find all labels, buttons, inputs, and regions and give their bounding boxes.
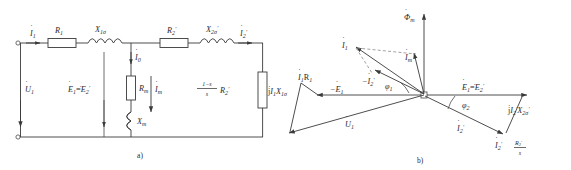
label-i2-r2-over-s: ̇I2′ R2′ s <box>494 137 526 156</box>
resistor-r1 <box>48 39 76 48</box>
phasor-u1 <box>289 95 424 133</box>
label-xm: Xm <box>136 117 147 127</box>
label-s-denominator: s <box>519 150 522 156</box>
label-phasor-i2-prime: ̇I2′ <box>456 120 465 133</box>
label-phasor-i1: ̇I1 <box>341 37 348 50</box>
label-slip-r2-prime: R2′ <box>219 86 230 96</box>
label-x1-sigma: X1σ <box>94 25 107 35</box>
label-i0: ̇I0 <box>134 49 141 62</box>
angle-arc-phi1 <box>400 82 409 93</box>
label-r2-prime: R2′ <box>166 26 177 36</box>
phasor-neg-i2-prime <box>375 70 424 94</box>
phasor-labels: ̇Φm ̇I1 ̇Im ̇I1R1 j̇I1X1σ ̇−E1 ̇−I2′ φ1 … <box>267 9 530 156</box>
caption-a: a) <box>137 151 143 160</box>
label-i2-prime: ̇I2′ <box>239 25 248 38</box>
label-u1: ̇U1 <box>25 81 34 94</box>
label-r2-prime-numerator: R2′ <box>514 140 523 148</box>
construction-line-i1-i2 <box>356 48 372 73</box>
label-phi2: φ2 <box>462 101 470 111</box>
label-neg-e1: ̇−E1 <box>330 81 344 94</box>
label-phasor-im: ̇Im <box>404 49 413 62</box>
phasor-i1-r1 <box>301 83 318 95</box>
phasor-j-i1-x1-sigma <box>290 83 301 132</box>
label-i1: ̇I1 <box>29 25 36 38</box>
label-slip-denominator: s <box>206 91 209 97</box>
label-phasor-u1: ̇U1 <box>345 116 354 129</box>
resistor-r2-prime <box>160 39 188 48</box>
label-e1-equals-e2-prime: ̇E1=̇E2′ <box>67 81 91 94</box>
label-phi-m: ̇Φm <box>404 9 415 22</box>
label-phasor-e1-e2: ̇E1=̇E2′ <box>461 79 485 92</box>
phasor-diagram: ̇Φm ̇I1 ̇Im ̇I1R1 j̇I1X1σ ̇−E1 ̇−I2′ φ1 … <box>267 9 530 165</box>
label-neg-i2-prime: ̇−I2′ <box>362 73 375 86</box>
label-im: ̇Im <box>154 81 163 94</box>
label-j-i2-x2-sigma: j̇I2′X2σ′ <box>507 105 530 115</box>
inductor-xm <box>127 112 131 130</box>
angle-arc-phi2 <box>448 96 455 109</box>
inductor-x1-sigma <box>88 39 122 43</box>
label-i1-r1: ̇I1R1 <box>297 69 312 82</box>
terminal-top-left <box>16 41 20 45</box>
resistor-slip <box>258 72 267 108</box>
terminal-bottom-left <box>16 135 20 139</box>
inductor-x2-sigma-prime <box>200 39 234 43</box>
resistor-rm <box>127 76 136 100</box>
label-phi1: φ1 <box>385 82 393 92</box>
label-rm: Rm <box>138 84 149 94</box>
label-i2-prime-factor: ̇I2′ <box>494 137 503 150</box>
circuit-diagram: ̇I1 R1 X1σ R2′ X2σ′ ̇I2′ ̇I0 Rm Xm ̇Im ̇… <box>16 25 267 160</box>
caption-b: b) <box>417 156 424 165</box>
figure-svg: ̇I1 R1 X1σ R2′ X2σ′ ̇I2′ ̇I0 Rm Xm ̇Im ̇… <box>0 0 571 170</box>
label-x2-sigma-prime: X2σ′ <box>205 25 219 35</box>
label-j-i1-x1-sigma: j̇I1X1σ <box>267 86 288 96</box>
label-slip-numerator: 1−s <box>202 81 212 87</box>
figure-container: ̇I1 R1 X1σ R2′ X2σ′ ̇I2′ ̇I0 Rm Xm ̇Im ̇… <box>0 0 571 170</box>
label-slip-resistance: 1−s s R2′ <box>197 81 230 97</box>
label-r1: R1 <box>54 26 63 36</box>
